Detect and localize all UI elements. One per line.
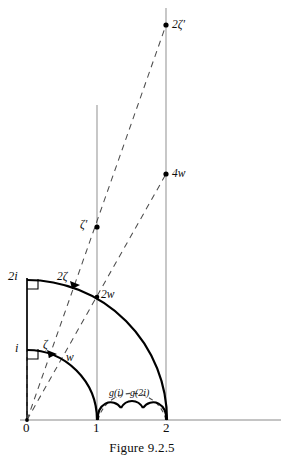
- label-g-of-i: g(i): [109, 388, 123, 398]
- axis-label-0: 0: [23, 421, 30, 434]
- label-2zeta-prime: 2ζ′: [172, 19, 185, 31]
- label-zeta-prime: ζ′: [80, 219, 87, 231]
- figure-9-2-5: 0 1 2 2i i 2ζ′ 4w ζ′ 2ζ 2w ζ w g(i) g(2i…: [0, 0, 284, 462]
- label-2zeta: 2ζ: [57, 271, 67, 283]
- axis-label-2i: 2i: [8, 270, 18, 283]
- figure-caption: Figure 9.2.5: [0, 440, 284, 456]
- label-w: w: [66, 352, 74, 364]
- axis-label-2: 2: [163, 421, 170, 434]
- label-2w: 2w: [101, 289, 114, 301]
- point-2w: [95, 295, 100, 300]
- scallop-arc-2: [121, 401, 143, 408]
- quarter-arc-radius-1: [27, 350, 97, 420]
- label-zeta: ζ: [43, 339, 48, 351]
- point-4w: [163, 171, 168, 176]
- point-zeta-prime: [94, 224, 99, 229]
- axis-label-1: 1: [93, 421, 100, 434]
- point-2zeta-prime: [163, 22, 168, 27]
- label-g-of-2i: g(2i): [130, 388, 149, 398]
- axis-label-i: i: [15, 342, 18, 355]
- label-4w: 4w: [172, 168, 185, 180]
